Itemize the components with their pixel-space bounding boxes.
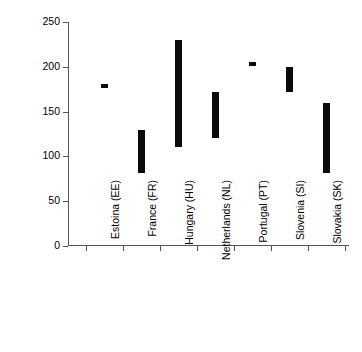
x-label-slovenia: Slovenia (SI) [294,180,307,276]
x-label-estoina: Estoina (EE) [109,180,122,276]
y-tick-label: 50 [48,194,60,206]
x-tick-mark-0 [86,246,87,251]
y-tick-label: 150 [42,105,60,117]
y-tick-mark [63,22,68,23]
x-tick-mark-6 [308,246,309,251]
range-bar-slovenia [286,67,293,92]
range-bar-slovakia [323,103,330,174]
y-tick-label: 250 [42,15,60,27]
range-bar-netherlands [212,92,219,139]
x-tick-mark-3 [197,246,198,251]
y-tick-mark [63,112,68,113]
y-tick-mark [63,156,68,157]
x-label-netherlands: Netherlands (NL) [220,180,233,276]
y-axis-line [68,22,69,246]
y-tick-label: 200 [42,60,60,72]
range-bar-estoina [101,84,108,89]
y-tick-label: 100 [42,149,60,161]
range-bar-hungary [175,40,182,148]
chart-figure: Primary energy requirement (kWh/m2/annum… [0,0,362,352]
y-tick-mark [63,201,68,202]
y-tick-mark [63,67,68,68]
range-bar-portugal [249,62,256,66]
x-tick-mark-1 [123,246,124,251]
x-tick-mark-2 [160,246,161,251]
x-tick-mark-4 [234,246,235,251]
x-tick-mark-5 [271,246,272,251]
y-tick-mark [63,246,68,247]
x-label-slovakia: Slovakia (SK) [331,180,344,276]
y-tick-label: 0 [54,239,60,251]
plot-area: 0 50 100 150 200 250 [68,22,348,246]
x-tick-mark-7 [345,246,346,251]
x-label-hungary: Hungary (HU) [183,180,196,276]
x-label-portugal: Portugal (PT) [257,180,270,276]
x-label-france: France (FR) [146,180,159,276]
range-bar-france [138,130,145,173]
